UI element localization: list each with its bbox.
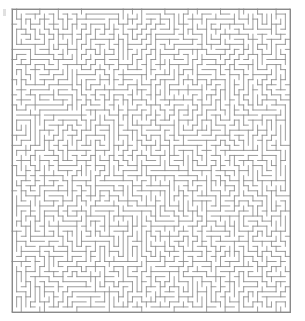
maze-figure [0,0,305,321]
maze-page [0,0,305,321]
maze-wall-path [12,9,290,312]
left-edge-mark-icon [3,9,6,16]
maze-walls [12,9,290,312]
maze-canvas [0,0,305,321]
